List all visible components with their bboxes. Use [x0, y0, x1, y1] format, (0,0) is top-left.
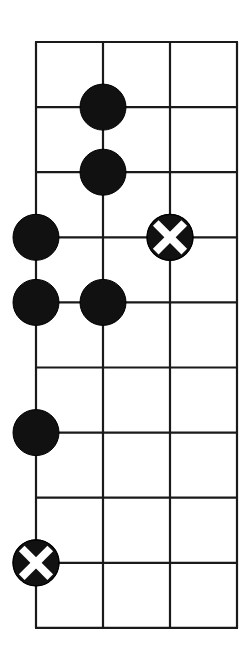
- board-grid: [35, 42, 238, 628]
- black-stone[interactable]: [13, 279, 59, 325]
- marked-stone[interactable]: [147, 214, 193, 260]
- black-stone[interactable]: [80, 149, 126, 195]
- game-board[interactable]: [0, 0, 251, 657]
- black-stone[interactable]: [13, 410, 59, 456]
- black-stone[interactable]: [13, 214, 59, 260]
- black-stone[interactable]: [80, 84, 126, 130]
- marked-stone[interactable]: [13, 540, 59, 586]
- black-stone[interactable]: [80, 279, 126, 325]
